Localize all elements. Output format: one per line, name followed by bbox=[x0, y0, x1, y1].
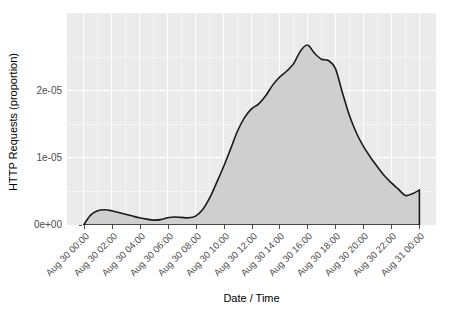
y-tick-label-0: 0e+00 bbox=[16, 220, 62, 230]
x-axis-ticks bbox=[67, 225, 436, 229]
y-tick-label-2: 2e-05 bbox=[16, 86, 62, 96]
x-axis-tick-labels: Aug 30 00:00Aug 30 02:00Aug 30 04:00Aug … bbox=[67, 231, 436, 291]
x-tick-mark-2 bbox=[140, 225, 141, 229]
x-tick-mark-4 bbox=[196, 225, 197, 229]
area-fill-path bbox=[84, 45, 420, 225]
x-tick-mark-6 bbox=[252, 225, 253, 229]
x-tick-mark-0 bbox=[84, 225, 85, 229]
plot-panel bbox=[67, 13, 436, 225]
y-tick-label-1: 1e-05 bbox=[16, 153, 62, 163]
x-tick-mark-7 bbox=[279, 225, 280, 229]
x-tick-mark-1 bbox=[112, 225, 113, 229]
x-tick-mark-12 bbox=[419, 225, 420, 229]
series-area-plot bbox=[67, 13, 436, 225]
x-tick-mark-11 bbox=[391, 225, 392, 229]
x-tick-mark-10 bbox=[363, 225, 364, 229]
x-tick-mark-3 bbox=[168, 225, 169, 229]
http-requests-area-chart: HTTP Requests (proportion) 0e+001e-052e-… bbox=[0, 0, 461, 317]
x-tick-mark-8 bbox=[307, 225, 308, 229]
x-tick-mark-5 bbox=[224, 225, 225, 229]
x-axis-title: Date / Time bbox=[67, 292, 436, 305]
x-tick-mark-9 bbox=[335, 225, 336, 229]
